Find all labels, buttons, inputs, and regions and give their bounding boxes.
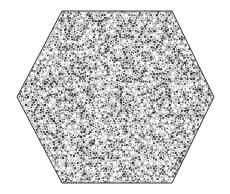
- hexagon-tiling-figure: [0, 0, 230, 194]
- figure-container: [0, 0, 230, 194]
